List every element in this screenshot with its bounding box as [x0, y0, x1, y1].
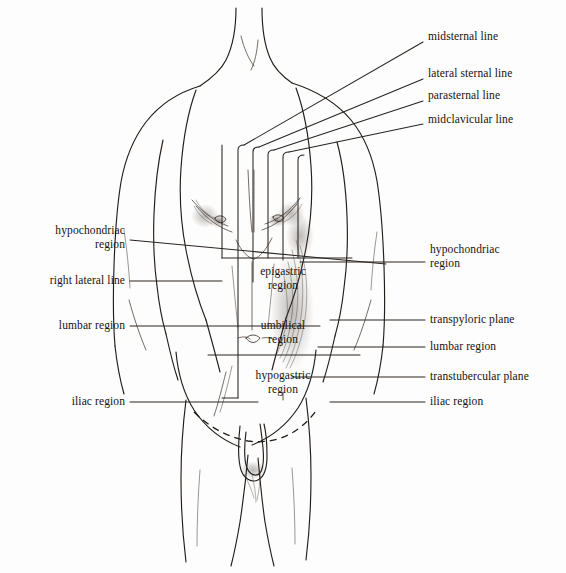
label-lumbar-region-right: lumbar region: [430, 340, 496, 354]
label-hypochondriac-region-left: hypochondriac region: [0, 224, 125, 251]
label-hypogastric-region: hypogastric region: [228, 369, 338, 396]
vertical-line-parasternal: [268, 150, 274, 258]
label-iliac-region-left: iliac region: [0, 395, 125, 409]
inguinal-dashed-line: [194, 408, 318, 442]
label-umbilical-region: umbilical region: [228, 319, 338, 346]
label-iliac-region-right: iliac region: [430, 395, 483, 409]
leader-lines-top-right: [244, 42, 423, 152]
label-midclavicular-line: midclavicular line: [428, 113, 513, 127]
label-lateral-sternal-line: lateral sternal line: [428, 67, 512, 81]
label-parasternal-line: parasternal line: [428, 89, 500, 103]
label-transpyloric-plane: transpyloric plane: [430, 313, 515, 327]
label-transtubercular-plane: transtubercular plane: [430, 370, 529, 384]
leader-parasternal: [274, 101, 423, 150]
label-right-lateral-line: right lateral line: [0, 274, 125, 288]
genital-region: [239, 424, 267, 502]
label-lumbar-region-left: lumbar region: [0, 319, 125, 333]
label-epigastric-region: epigastric region: [228, 265, 338, 292]
label-midsternal-line: midsternal line: [428, 30, 498, 44]
label-hypochondriac-region-right: hypochondriac region: [430, 243, 500, 270]
